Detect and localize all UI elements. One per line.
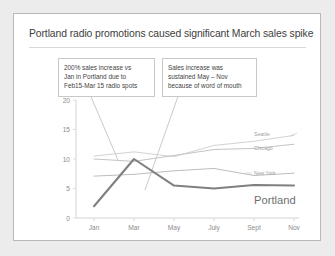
series-label-new-york: New York <box>254 170 276 176</box>
callout-line: because of word of mouth <box>168 81 252 90</box>
x-tick-label: July <box>208 224 220 232</box>
x-axis-ticks: Jan Mar May July Sept Nov <box>89 218 301 232</box>
callout-box-sales-increase: 200% sales increase vs Jan in Portland d… <box>58 58 155 97</box>
x-tick-label: May <box>168 224 181 232</box>
series-label-portland: Portland <box>254 194 296 206</box>
line-chart: 20 15 10 5 0 Jan Mar May July <box>14 14 321 241</box>
callout-line: Sales increase was <box>168 63 252 72</box>
series-label-chicago: Chicago <box>254 145 273 151</box>
y-tick-label: 0 <box>66 215 70 222</box>
callout-line: 200% sales increase vs <box>64 63 150 72</box>
x-tick-label: Jan <box>89 224 100 231</box>
callout-line: Jan in Portland due to <box>64 72 150 81</box>
x-tick-label: Nov <box>288 224 300 231</box>
callout-box-sustained-growth: Sales increase was sustained May – Nov b… <box>162 58 257 97</box>
y-tick-label: 20 <box>63 97 71 104</box>
leader-line-2 <box>145 85 182 190</box>
x-tick-label: Mar <box>128 224 140 231</box>
series-label-seattle: Seattle <box>254 131 270 137</box>
y-tick-label: 5 <box>66 185 70 192</box>
series-labels: Seattle Chicago New York Portland <box>245 131 297 206</box>
x-tick-label: Sept <box>247 224 261 232</box>
y-tick-label: 15 <box>63 126 71 133</box>
slide-card: Portland radio promotions caused signifi… <box>13 13 321 241</box>
callout-line: sustained May – Nov <box>168 72 252 81</box>
callout-line: Feb15-Mar 15 radio spots <box>64 81 150 90</box>
y-tick-label: 10 <box>63 156 71 163</box>
y-axis-ticks: 20 15 10 5 0 <box>63 97 76 222</box>
